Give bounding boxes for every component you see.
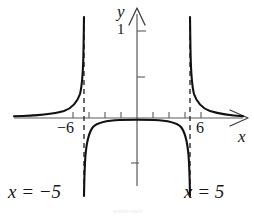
- curve-group: [14, 17, 243, 196]
- y-tick-label-1: 1: [117, 22, 125, 37]
- graph-figure: y x 1 −6 6 x = −5 x = 5 watermark: [0, 0, 254, 221]
- x-tick-label-6: 6: [196, 120, 204, 136]
- y-axis-label: y: [117, 3, 125, 20]
- asymptote-label-left: x = −5: [8, 182, 61, 201]
- axis-group: [14, 8, 248, 186]
- asymptote-label-right: x = 5: [184, 182, 224, 201]
- x-tick-label-neg6: −6: [57, 120, 74, 136]
- curve-right-branch: [190, 17, 243, 116]
- curve-left-branch: [14, 17, 84, 116]
- watermark: watermark: [48, 208, 208, 217]
- x-axis-label: x: [238, 128, 246, 145]
- y-axis-ticks: [131, 31, 146, 163]
